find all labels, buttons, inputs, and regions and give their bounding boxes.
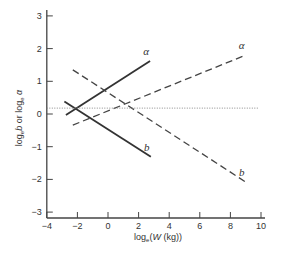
y-tick-label: 2 xyxy=(37,44,42,54)
series-label: α xyxy=(239,39,245,51)
y-tick-label: −3 xyxy=(32,207,42,217)
axes xyxy=(47,10,265,218)
x-tick-label: −4 xyxy=(42,221,52,231)
y-tick-label: 3 xyxy=(37,11,42,21)
x-tick-label: 0 xyxy=(105,221,110,231)
x-axis-label: loge(W (kg)) xyxy=(134,232,182,243)
series-line-dashed-alpha xyxy=(73,55,246,125)
y-ticks: 3210−1−2−3 xyxy=(32,11,53,217)
series-line-solid-alpha xyxy=(66,61,150,115)
chart: −4−20246810 3210−1−2−3 αbαb loge(W (kg))… xyxy=(0,0,284,255)
series-label: b xyxy=(239,166,245,178)
x-ticks: −4−20246810 xyxy=(42,212,266,231)
y-tick-label: −2 xyxy=(32,174,42,184)
series-label: b xyxy=(144,141,150,153)
series: αbαb xyxy=(47,39,258,182)
x-tick-label: 6 xyxy=(197,221,202,231)
y-tick-label: −1 xyxy=(32,142,42,152)
x-tick-label: 2 xyxy=(136,221,141,231)
y-axis-label: logeb or loge α xyxy=(14,89,25,146)
y-tick-label: 0 xyxy=(37,109,42,119)
x-tick-label: 4 xyxy=(167,221,172,231)
y-tick-label: 1 xyxy=(37,76,42,86)
series-line-dashed-b xyxy=(73,70,246,182)
series-label: α xyxy=(143,45,149,57)
series-line-solid-b xyxy=(64,102,150,157)
x-tick-label: 8 xyxy=(228,221,233,231)
x-tick-label: 10 xyxy=(256,221,266,231)
x-tick-label: −2 xyxy=(72,221,82,231)
